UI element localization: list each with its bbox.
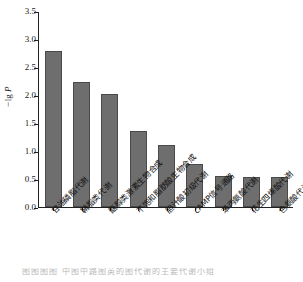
page-bleed-strip: 图图图图 中图中路图英的图代谢的主要代谢小组 — [0, 268, 303, 282]
x-axis-category-labels: 甘油磷脂代谢鞘脂类代谢甑醇类激素生物合成不饱和脂肪酸生物合成胆汁酸初级代谢cAM… — [38, 209, 303, 271]
y-tick-label: 3.5 — [25, 6, 36, 17]
y-tick-label: 1.0 — [25, 146, 36, 157]
y-tick-label: 0.0 — [25, 202, 36, 213]
y-axis-title-p: P — [3, 87, 13, 93]
y-tick-label: 2.5 — [25, 62, 36, 73]
y-tick-label: 1.5 — [25, 118, 36, 129]
y-tick-label: 2.0 — [25, 90, 36, 101]
y-tick-label: 0.5 — [25, 174, 36, 185]
page-bleed-text: 图图图图 中图中路图英的图代谢的主要代谢小组 — [22, 268, 215, 276]
bar-chart-figure: −lg P 0.00.51.01.52.02.53.03.5 甘油磷脂代谢鞘脂类… — [0, 0, 303, 282]
y-tick-label: 3.0 — [25, 34, 36, 45]
y-axis-title-minus: − — [3, 101, 13, 107]
bar — [45, 51, 62, 207]
y-axis-title: −lg P — [3, 75, 13, 119]
y-axis-title-lg: lg — [3, 94, 13, 101]
